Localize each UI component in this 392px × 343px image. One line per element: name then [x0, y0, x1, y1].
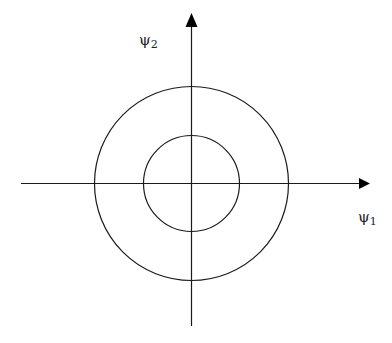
x-axis-label-subscript: 1 — [370, 215, 377, 228]
x-axis-arrowhead-icon — [359, 178, 370, 189]
y-axis-label-symbol: ψ — [139, 31, 151, 49]
y-axis-label: ψ2 — [139, 31, 158, 51]
y-axis-label-subscript: 2 — [151, 38, 158, 51]
phase-diagram: ψ2 ψ1 — [0, 0, 392, 343]
x-axis-label: ψ1 — [358, 208, 377, 228]
x-axis-label-symbol: ψ — [358, 208, 370, 226]
y-axis-arrowhead-icon — [186, 13, 198, 27]
